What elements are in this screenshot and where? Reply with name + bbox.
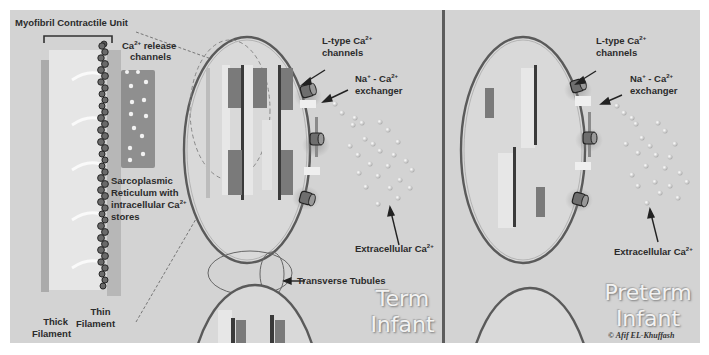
ltype-sup: 2+: [365, 35, 372, 41]
sr-sup: 2+: [180, 199, 187, 205]
thick-text-1: Thick: [35, 316, 68, 327]
myofibril-text: Myofibril Contractile Unit: [15, 17, 128, 28]
copyright-text: © Afif EL-Khuffash: [608, 331, 674, 340]
preterm-ltype-text-1: L-type Ca: [596, 35, 639, 46]
ttubules-label: Transverse Tubules: [297, 275, 386, 286]
preterm-infant-title: Preterm Infant: [598, 280, 698, 332]
thin-filament-label: Thin Filament: [76, 306, 115, 330]
preterm-calcium-ion-dots: [615, 104, 690, 206]
thick-text-2: Filament: [32, 328, 71, 339]
thin-text-1: Thin: [81, 306, 111, 317]
sr-text-2: Reticulum with: [111, 187, 179, 198]
ca-release-text-1: Ca: [122, 40, 134, 51]
preterm-extra-sup: 2+: [686, 246, 693, 252]
ca-release-text-2: release: [141, 40, 176, 51]
sr-text-4: stores: [111, 211, 140, 222]
ca-release-sup: 2+: [134, 40, 141, 46]
extra-sup: 2+: [427, 243, 434, 249]
myocyte-calcium-diagram: Myofibril Contractile Unit Ca2+ release …: [10, 10, 700, 343]
ltype-text-1: L-type Ca: [322, 35, 365, 46]
ncx-sup-2: 2+: [391, 73, 398, 79]
thick-filament-label: Thick Filament: [32, 316, 71, 340]
term-extracellular-label: Extracellular Ca2+: [355, 243, 434, 254]
ncx-text-2: exchanger: [355, 85, 403, 96]
preterm-ltype-sup: 2+: [639, 35, 646, 41]
preterm-extra-text: Extracellular Ca: [614, 246, 686, 257]
ltype-text-2: channels: [322, 47, 363, 58]
preterm-ltype-text-2: channels: [596, 47, 637, 58]
sr-text-3: intracellular Ca: [111, 199, 180, 210]
term-title-line2: Infant: [360, 312, 445, 338]
sr-text-1: Sarcoplasmic: [111, 175, 173, 186]
ttubules-text: Transverse Tubules: [297, 275, 386, 286]
preterm-ncx-sup-2: 2+: [666, 73, 673, 79]
sr-label: Sarcoplasmic Reticulum with intracellula…: [111, 175, 186, 223]
preterm-ncx-label: Na+ - Ca2+ exchanger: [630, 73, 678, 97]
preterm-ncx-text-1: Na: [630, 73, 642, 84]
ca-release-label: Ca2+ release channels: [122, 40, 176, 62]
term-title-line1: Term: [360, 286, 445, 312]
preterm-title-line1: Preterm: [598, 280, 698, 306]
term-infant-title: Term Infant: [360, 286, 445, 338]
thin-text-2: Filament: [76, 318, 115, 329]
extra-text: Extracellular Ca: [355, 243, 427, 254]
ncx-text-mid: - Ca: [371, 73, 392, 84]
term-ltype-label: L-type Ca2+ channels: [322, 35, 372, 59]
preterm-extracellular-label: Extracellular Ca2+: [614, 246, 693, 257]
ncx-text-1: Na: [355, 73, 367, 84]
preterm-ltype-label: L-type Ca2+ channels: [596, 35, 646, 59]
preterm-title-line2: Infant: [598, 306, 698, 332]
preterm-ncx-text-mid: - Ca: [646, 73, 667, 84]
calcium-ion-dots: [333, 102, 415, 207]
ca-release-text-3: channels: [122, 51, 171, 62]
preterm-ncx-text-2: exchanger: [630, 85, 678, 96]
term-ncx-label: Na+ - Ca2+ exchanger: [355, 73, 403, 97]
myofibril-label: Myofibril Contractile Unit: [15, 17, 128, 28]
